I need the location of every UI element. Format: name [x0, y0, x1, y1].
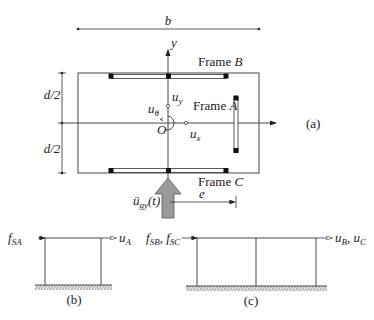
ground-accel-label: ügy(t) [133, 193, 160, 210]
ground-hatch [186, 286, 327, 291]
ground-motion-arrow: ügy(t) [133, 178, 181, 218]
ground-hatch [35, 285, 112, 290]
column-marker [109, 74, 114, 79]
column-marker [166, 74, 171, 79]
dim-b-label: b [165, 13, 172, 28]
column-marker [234, 148, 239, 153]
displacement-label: uA [119, 230, 132, 247]
u-x-label: ux [190, 126, 201, 143]
column-marker [166, 168, 171, 173]
frame-a-label: Frame A [193, 98, 237, 113]
dim-e-label: e [199, 186, 205, 201]
y-axis-label: y [169, 35, 177, 50]
frame-c: Frame C [109, 168, 244, 189]
origin-label: O [157, 122, 167, 137]
frame-b-label: Frame B [198, 54, 242, 69]
diagram-svg: b d/2 d/2 y Frame B [0, 0, 374, 320]
plan-view: b d/2 d/2 y Frame B [44, 13, 321, 218]
frame-b: Frame B [109, 54, 243, 79]
displacement-label: uB, uC [335, 230, 367, 247]
dimension-b: b [77, 13, 261, 30]
frame-a-elevation: fSA uA (b) [8, 230, 132, 307]
frame-a: Frame A [193, 96, 239, 154]
frame-bc-elevation: fSB, fSC uB, uC (c) [146, 230, 367, 308]
u-x-node [184, 121, 187, 124]
panel-a-label: (a) [306, 116, 320, 131]
force-label: fSA [8, 230, 22, 247]
dim-d-bottom-label: d/2 [44, 141, 61, 156]
u-y-node [166, 104, 169, 107]
panel-c-label: (c) [244, 293, 258, 308]
force-label: fSB, fSC [146, 230, 181, 247]
column-marker [224, 74, 229, 79]
u-y-label: uy [172, 89, 183, 106]
structural-diagram: b d/2 d/2 y Frame B [0, 0, 374, 320]
column-marker [224, 168, 229, 173]
dim-d-top-label: d/2 [44, 87, 61, 102]
column-marker [109, 168, 114, 173]
dimension-e: e [170, 186, 236, 208]
panel-b-label: (b) [66, 292, 81, 307]
u-theta-label: uθ [148, 101, 160, 118]
